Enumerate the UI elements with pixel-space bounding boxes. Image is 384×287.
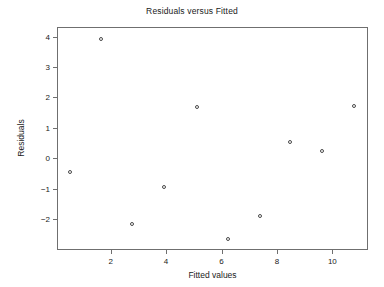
data-point: [68, 170, 72, 174]
data-point: [99, 37, 103, 41]
x-tick-mark: [166, 249, 167, 254]
residuals-versus-fitted-chart: Residuals versus Fitted 43210−1−2 246810…: [0, 0, 384, 287]
y-tick-label: 3: [46, 62, 50, 71]
x-tick-mark: [332, 249, 333, 254]
x-tick-label: 2: [108, 257, 112, 266]
data-point: [320, 149, 324, 153]
chart-title: Residuals versus Fitted: [0, 6, 384, 16]
data-point: [195, 105, 199, 109]
y-tick-label: −2: [41, 215, 50, 224]
y-tick-label: 0: [46, 154, 50, 163]
x-tick-mark: [111, 249, 112, 254]
y-axis-label: Residuals: [16, 119, 26, 156]
x-tick-label: 4: [164, 257, 168, 266]
plot-area: 43210−1−2 246810: [57, 27, 368, 250]
x-axis-label: Fitted values: [57, 270, 368, 280]
data-point: [130, 222, 134, 226]
scatter-points: [58, 28, 367, 249]
x-tick-label: 8: [275, 257, 279, 266]
x-tick-label: 10: [328, 257, 337, 266]
y-tick-label: 2: [46, 93, 50, 102]
y-tick-label: 1: [46, 123, 50, 132]
x-tick-mark: [277, 249, 278, 254]
data-point: [162, 185, 166, 189]
x-tick-mark: [222, 249, 223, 254]
data-point: [258, 214, 262, 218]
data-point: [352, 104, 356, 108]
x-tick-label: 6: [219, 257, 223, 266]
data-point: [226, 237, 230, 241]
data-point: [288, 140, 292, 144]
y-tick-label: 4: [46, 32, 50, 41]
y-tick-label: −1: [41, 184, 50, 193]
